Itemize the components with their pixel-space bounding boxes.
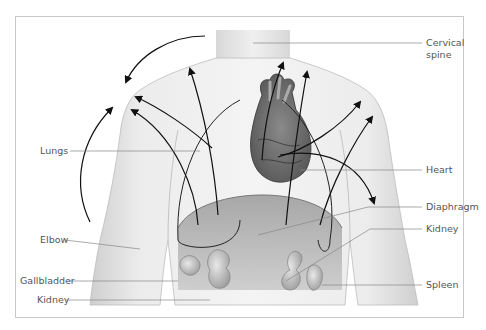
label-kidney-right: Kidney	[426, 223, 458, 235]
neck	[216, 30, 290, 60]
label-cervical-spine: Cervical spine	[426, 37, 464, 61]
label-elbow: Elbow	[40, 234, 68, 246]
label-gallbladder: Gallbladder	[20, 275, 75, 287]
label-lungs: Lungs	[40, 145, 68, 157]
label-spleen: Spleen	[426, 279, 458, 291]
arrow-elbow-shoulder	[81, 108, 112, 222]
label-kidney-left: Kidney	[37, 294, 69, 306]
label-heart: Heart	[426, 164, 452, 176]
label-diaphragm: Diaphragm	[426, 201, 479, 213]
kidney-left	[208, 250, 230, 288]
